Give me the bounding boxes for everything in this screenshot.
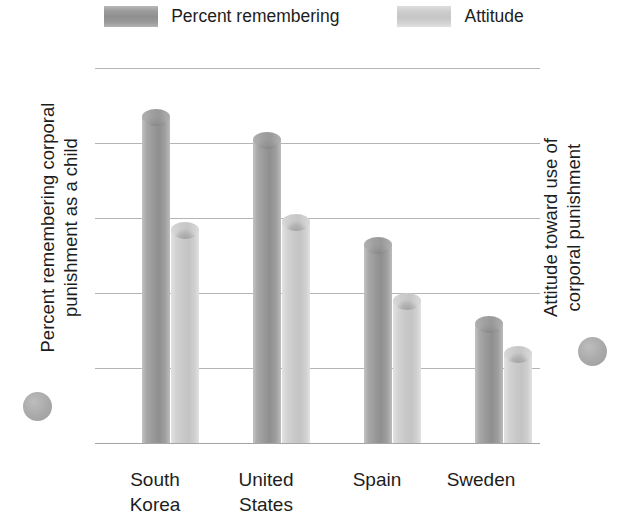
y-axis-left-title-line1: Percent remembering corporal xyxy=(37,73,60,383)
x-axis-label-united-states: United States xyxy=(206,468,326,517)
bar-spain-percent-remembering[interactable] xyxy=(364,237,392,443)
bar-body xyxy=(393,300,421,443)
legend-label-attitude: Attitude xyxy=(464,6,523,27)
y-axis-right-title-line1: Attitude toward use of xyxy=(540,73,563,383)
x-axis-label-united-states-line1: United xyxy=(206,468,326,493)
legend-swatch-icon-percent-remembering xyxy=(104,6,158,27)
bar-cap-shading xyxy=(253,132,281,149)
y-axis-right-title: Attitude toward use of corporal punishme… xyxy=(540,73,585,383)
bar-spain-attitude[interactable] xyxy=(393,293,421,443)
y-axis-left-title-line2: punishment as a child xyxy=(60,73,83,383)
bar-body xyxy=(475,323,503,444)
bar-body xyxy=(504,353,532,444)
legend-swatch-icon-attitude xyxy=(397,6,451,27)
bar-body xyxy=(171,229,199,443)
left-axis-marker-dot-icon xyxy=(23,392,52,421)
x-axis-label-united-states-line2: States xyxy=(206,493,326,518)
x-axis-label-spain: Spain xyxy=(317,468,437,493)
x-axis-label-south-korea-line2: Korea xyxy=(95,493,215,518)
bar-cap-shading xyxy=(504,346,532,363)
x-axis-label-south-korea-line1: South xyxy=(95,468,215,493)
legend-label-percent-remembering: Percent remembering xyxy=(171,6,339,27)
chart-figure: Percent remembering Attitude Percent rem… xyxy=(0,0,628,527)
bar-united-states-percent-remembering[interactable] xyxy=(253,132,281,443)
bar-body xyxy=(142,116,170,443)
bar-body xyxy=(253,139,281,443)
x-axis-label-sweden: Sweden xyxy=(421,468,541,493)
bar-south-korea-percent-remembering[interactable] xyxy=(142,109,170,443)
bar-cap-shading xyxy=(171,222,199,239)
x-axis-categories: South Korea United States Spain Sweden xyxy=(95,468,540,526)
x-axis-label-sweden-line1: Sweden xyxy=(421,468,541,493)
chart-legend: Percent remembering Attitude xyxy=(0,0,628,32)
bar-cap-shading xyxy=(393,293,421,310)
x-axis-label-spain-line1: Spain xyxy=(317,468,437,493)
bar-body xyxy=(282,221,310,443)
bars-layer xyxy=(95,68,540,443)
bar-south-korea-attitude[interactable] xyxy=(171,222,199,443)
bar-sweden-percent-remembering[interactable] xyxy=(475,316,503,444)
plot-area: 100 80 60 40 20 0 5 4 3 2 1 0 xyxy=(95,68,540,443)
x-axis-label-south-korea: South Korea xyxy=(95,468,215,517)
bar-cap-shading xyxy=(364,237,392,254)
gridline-baseline-0 xyxy=(95,443,540,444)
legend-item-percent-remembering[interactable]: Percent remembering xyxy=(104,6,339,27)
right-axis-marker-dot-icon xyxy=(578,337,607,366)
y-axis-right-title-line2: corporal punishment xyxy=(563,73,586,383)
bar-united-states-attitude[interactable] xyxy=(282,214,310,443)
bar-sweden-attitude[interactable] xyxy=(504,346,532,444)
y-axis-left-title: Percent remembering corporal punishment … xyxy=(37,73,82,383)
bar-body xyxy=(364,244,392,443)
bar-cap-shading xyxy=(475,316,503,333)
legend-item-attitude[interactable]: Attitude xyxy=(397,6,523,27)
